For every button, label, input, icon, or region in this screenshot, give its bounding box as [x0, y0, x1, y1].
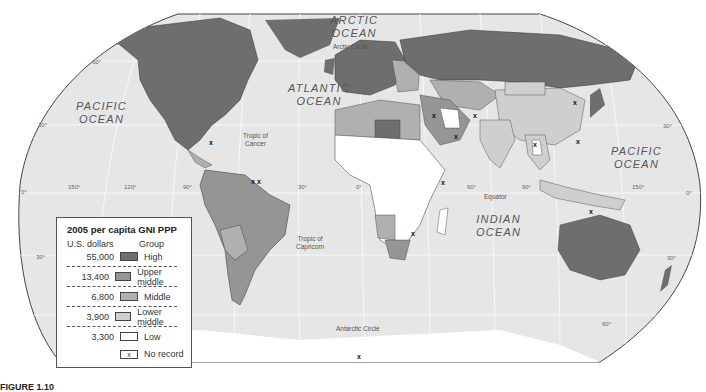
lon-150w: 150° — [68, 184, 80, 190]
legend-group: Lower middle — [137, 307, 185, 327]
no-record-marker: x — [589, 208, 593, 215]
no-record-symbol: x — [120, 350, 138, 359]
tropic-of-capricorn-label: Tropic of Capricorn — [296, 235, 324, 251]
legend-group: No record — [144, 349, 184, 359]
no-record-marker: x — [454, 133, 458, 140]
swatch-low — [120, 332, 138, 341]
tropic-of-cancer-label: Tropic of Cancer — [243, 132, 268, 148]
legend-row-upper-middle: 13,400 Upper middle — [67, 269, 185, 284]
no-record-marker: x — [573, 99, 577, 106]
swatch-lower-middle — [115, 312, 131, 321]
lat-30n-west: 30° — [38, 122, 47, 128]
legend-header: U.S. dollars Group — [67, 239, 185, 249]
no-record-marker: x — [432, 112, 436, 119]
legend-row-high: 55,000 High — [67, 249, 185, 264]
no-record-marker: x — [209, 139, 213, 146]
no-record-marker: x — [473, 112, 477, 119]
swatch-middle — [120, 292, 138, 301]
no-record-marker: x — [441, 179, 445, 186]
no-record-marker: x — [533, 141, 537, 148]
lon-150e: 150° — [632, 184, 644, 190]
lon-90w: 90° — [183, 184, 192, 190]
no-record-marker: x — [357, 353, 361, 360]
legend-row-no-record: x No record — [120, 349, 185, 359]
no-record-marker: x — [576, 138, 580, 145]
legend-value: 6,800 — [67, 292, 114, 302]
lat-30s-east: 30° — [667, 255, 676, 261]
lon-90e: 90° — [522, 184, 531, 190]
legend-value: 3,300 — [67, 332, 114, 342]
legend-group: Low — [144, 332, 161, 342]
legend-group: High — [144, 252, 163, 262]
lon-120w: 120° — [124, 184, 136, 190]
legend-row-lower-middle: 3,900 Lower middle — [67, 309, 185, 324]
legend-row-low: 3,300 Low — [67, 329, 185, 344]
legend-value: 55,000 — [67, 252, 114, 262]
lat-30s-west: 30° — [36, 254, 45, 260]
legend-col-dollars: U.S. dollars — [67, 239, 139, 249]
equator-label: Equator — [484, 193, 507, 201]
lon-60e: 60° — [467, 184, 476, 190]
legend-group: Middle — [144, 292, 171, 302]
lon-30w: 30° — [298, 184, 307, 190]
map-legend: 2005 per capita GNI PPP U.S. dollars Gro… — [56, 217, 192, 368]
figure-number: FIGURE 1.10 — [0, 382, 54, 392]
no-record-marker: x — [257, 178, 261, 185]
ocean-label-indian: INDIAN OCEAN — [476, 213, 521, 239]
figure-caption: FIGURE 1.10 — [0, 382, 54, 392]
legend-group: Upper middle — [137, 267, 185, 287]
swatch-high — [120, 252, 138, 261]
lat-0-east: 0° — [686, 190, 692, 196]
lat-60s-east: 60° — [602, 321, 611, 327]
antarctic-circle-label: Antarctic Circle — [336, 325, 380, 333]
lon-0: 0° — [356, 184, 362, 190]
no-record-marker: x — [251, 178, 255, 185]
legend-col-group: Group — [139, 239, 164, 249]
no-record-marker: x — [411, 230, 415, 237]
ocean-label-atlantic: ATLANTIC OCEAN — [288, 82, 350, 108]
lat-0-west: 0° — [21, 189, 27, 195]
lat-30n-east: 30° — [663, 123, 672, 129]
ocean-label-pacific-east: PACIFIC OCEAN — [611, 145, 662, 171]
ocean-label-arctic: ARCTIC OCEAN — [330, 14, 378, 40]
legend-row-middle: 6,800 Middle — [67, 289, 185, 304]
legend-value: 13,400 — [67, 272, 109, 282]
legend-value: 3,900 — [67, 312, 109, 322]
arctic-circle-label: Arctic Circle — [333, 43, 368, 51]
legend-title: 2005 per capita GNI PPP — [67, 224, 185, 235]
lat-60n-west: 60° — [92, 59, 101, 65]
ocean-label-pacific-west: PACIFIC OCEAN — [76, 100, 127, 126]
swatch-upper-middle — [115, 272, 131, 281]
